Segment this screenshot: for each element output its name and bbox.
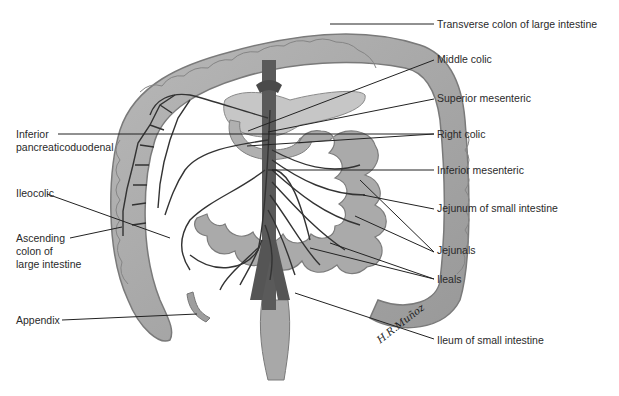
pancreas <box>224 91 365 137</box>
label-ascending-colon: Ascending colon of large intestine <box>16 232 81 271</box>
label-jejunals: Jejunals <box>437 244 476 257</box>
label-jejunum: Jejunum of small intestine <box>437 202 558 215</box>
appendix-shape <box>187 292 210 322</box>
label-inferior-pancreaticoduodenal: Inferior pancreaticoduodenal <box>16 128 114 154</box>
label-middle-colic: Middle colic <box>437 53 492 66</box>
label-transverse-colon: Transverse colon of large intestine <box>437 18 597 31</box>
label-superior-mesenteric: Superior mesenteric <box>437 92 531 105</box>
large-intestine <box>111 34 469 341</box>
label-ileocolic: Ileocolic <box>16 187 54 200</box>
label-ileals: Ileals <box>437 273 462 286</box>
label-ileum: Ileum of small intestine <box>437 334 544 347</box>
label-appendix: Appendix <box>16 314 60 327</box>
rectum <box>260 300 289 380</box>
label-inferior-mesenteric: Inferior mesenteric <box>437 164 524 177</box>
label-right-colic: Right colic <box>437 128 485 141</box>
